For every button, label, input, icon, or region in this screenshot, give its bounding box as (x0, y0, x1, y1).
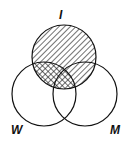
label-m: M (110, 124, 120, 136)
label-w: W (11, 124, 22, 136)
label-i: I (59, 9, 62, 21)
venn-diagram (0, 0, 131, 141)
